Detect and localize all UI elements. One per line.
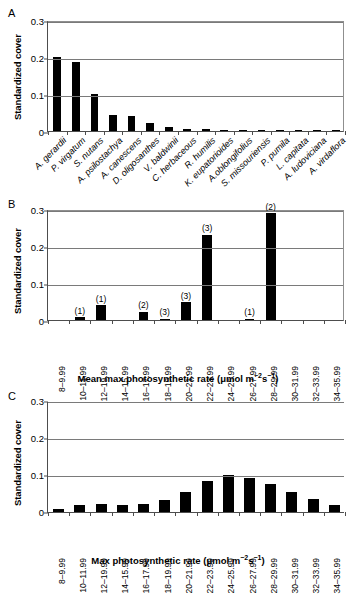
x-tick-mark: [141, 131, 142, 135]
x-tick-mark: [252, 131, 253, 135]
bar-slot: [159, 22, 178, 131]
bar-slot: (2): [260, 211, 281, 320]
x-tick-mark: [178, 131, 179, 135]
y-tick-mark: [44, 439, 48, 440]
y-tick-mark: [44, 285, 48, 286]
x-tick-mark: [69, 512, 70, 516]
bar-slot: [133, 402, 154, 512]
bar: [96, 305, 106, 320]
bar: [276, 130, 284, 131]
x-tick-mark: [324, 512, 325, 516]
bar: [180, 492, 191, 512]
bar-slot: (3): [175, 211, 196, 320]
x-tick-mark: [218, 512, 219, 516]
bar-slot: [252, 22, 271, 131]
x-tick-mark: [112, 512, 113, 516]
x-tick-mark: [175, 512, 176, 516]
panel-c-y-axis-title: Standardized cover: [12, 420, 23, 506]
x-tick-mark: [67, 131, 68, 135]
bar: [181, 302, 191, 320]
panel-b-plot-area: (1)(1)(2)(3)(3)(3)(1)(2) 00.10.20.3: [47, 210, 344, 321]
gridline: [48, 22, 343, 23]
panel-c-plot-area: 00.10.20.3: [47, 402, 344, 513]
bar-slot: [239, 402, 260, 512]
bar-slot: [218, 402, 239, 512]
bar-slot: [112, 402, 133, 512]
x-tick-mark: [48, 320, 49, 324]
bar-count-annotation: (1): [75, 307, 85, 316]
x-tick-mark: [197, 512, 198, 516]
x-tick-mark: [326, 131, 327, 135]
x-tick-mark: [133, 320, 134, 324]
bar: [165, 127, 173, 131]
x-tick-mark: [133, 512, 134, 516]
bar: [266, 213, 276, 320]
x-tick-mark: [303, 512, 304, 516]
bar: [138, 504, 149, 512]
x-axis-title-exponent-1: −2: [240, 554, 248, 561]
bar: [202, 481, 213, 512]
bar-slot: [154, 402, 175, 512]
x-tick-mark: [234, 131, 235, 135]
panel-a-plot-area: 00.10.20.3: [47, 21, 344, 132]
bar: [146, 123, 154, 131]
x-tick-mark: [281, 512, 282, 516]
bar-slot: [175, 402, 196, 512]
bar-slot: [48, 22, 67, 131]
bar-count-annotation: (2): [138, 301, 148, 310]
x-axis-title-exponent-2: −1: [267, 372, 275, 379]
bar-count-annotation: (1): [96, 295, 106, 304]
x-tick-mark: [90, 320, 91, 324]
y-tick-mark: [44, 96, 48, 97]
x-axis-title-close-paren: ): [275, 373, 278, 384]
panel-c-x-axis-title: Max photosynthetic rate (μmol m−2s−1): [0, 555, 356, 566]
bar-slot: [303, 211, 324, 320]
bar: [244, 478, 255, 512]
gridline: [48, 96, 343, 97]
panel-b-bars: (1)(1)(2)(3)(3)(3)(1)(2): [48, 211, 343, 320]
x-tick-mark: [308, 131, 309, 135]
x-tick-mark: [154, 512, 155, 516]
panel-c: C Standardized cover 00.10.20.3 8–9.9910…: [0, 391, 356, 580]
y-tick-mark: [44, 211, 48, 212]
bar: [159, 500, 170, 512]
bar-count-annotation: (1): [244, 308, 254, 317]
x-tick-mark: [159, 131, 160, 135]
bar: [91, 94, 99, 131]
x-tick-mark: [215, 131, 216, 135]
x-tick-mark: [260, 512, 261, 516]
bar: [308, 499, 319, 512]
panel-a-letter: A: [8, 8, 15, 19]
bar: [258, 130, 266, 131]
bar-slot: (3): [154, 211, 175, 320]
bar-slot: [303, 402, 324, 512]
x-tick-mark: [324, 320, 325, 324]
panel-b-x-axis-title: Mean max photosynthetic rate (μmol m−2s−…: [0, 373, 356, 384]
x-tick-mark: [345, 131, 346, 135]
bar: [286, 492, 297, 512]
bar: [223, 475, 234, 512]
x-tick-mark: [281, 320, 282, 324]
x-tick-mark: [303, 320, 304, 324]
bar: [183, 129, 191, 131]
panel-c-bars: [48, 402, 344, 512]
bar: [329, 505, 340, 512]
x-tick-mark: [271, 131, 272, 135]
bar-slot: [308, 22, 327, 131]
bar-slot: [289, 22, 308, 131]
panel-a-y-axis-title: Standardized cover: [12, 34, 23, 120]
bar: [74, 505, 85, 512]
x-tick-mark: [104, 131, 105, 135]
bar-slot: [104, 22, 123, 131]
bar-slot: [281, 402, 302, 512]
x-tick-mark: [197, 320, 198, 324]
bar: [139, 312, 149, 321]
y-tick-mark: [44, 248, 48, 249]
bar-slot: [324, 402, 345, 512]
x-tick-mark: [345, 512, 346, 516]
bar-count-annotation: (3): [202, 224, 212, 233]
bar: [265, 484, 276, 512]
bar-slot: [215, 22, 234, 131]
bar: [220, 130, 228, 131]
bar-slot: (3): [197, 211, 218, 320]
